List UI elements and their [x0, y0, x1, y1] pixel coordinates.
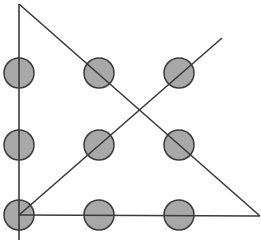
diagram-svg	[0, 0, 261, 250]
dot-r0-c2	[164, 58, 194, 88]
line-bottom-horizontal	[19, 215, 260, 216]
line-diagonal-up	[19, 38, 222, 215]
nine-dots-diagram	[0, 0, 261, 250]
solution-lines	[19, 4, 260, 240]
